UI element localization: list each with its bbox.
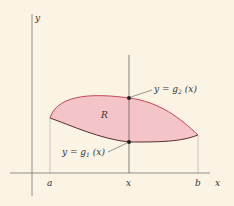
diagram-canvas: y x a x b R y = g2 (x) y = g1 (x) — [0, 0, 234, 206]
tick-label-x: x — [126, 178, 131, 188]
upper-point-dot — [127, 96, 131, 100]
region-r — [50, 96, 198, 142]
region-between-curves-diagram: y x a x b R y = g2 (x) y = g1 (x) — [0, 0, 234, 206]
upper-curve-label: y = g2 (x) — [153, 84, 197, 95]
tick-label-b: b — [195, 178, 201, 188]
y-axis-label: y — [34, 13, 41, 23]
region-label-r: R — [100, 110, 108, 120]
lower-point-dot — [127, 140, 131, 144]
lower-curve-label: y = g1 (x) — [61, 147, 105, 158]
g1-leader-line — [108, 143, 127, 152]
tick-label-a: a — [47, 178, 52, 188]
g2-leader-line — [131, 90, 152, 97]
x-axis-label: x — [215, 178, 220, 188]
